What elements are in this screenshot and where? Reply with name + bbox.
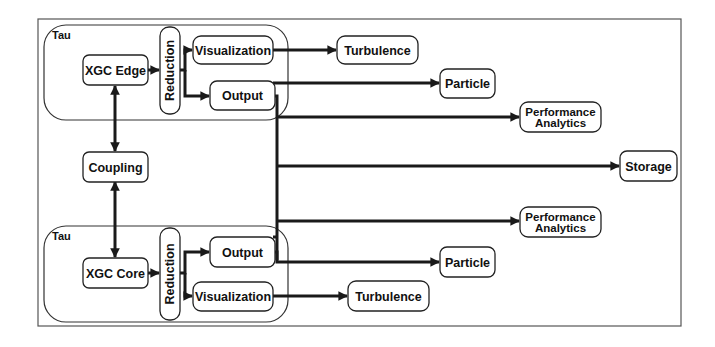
node-xgc-core[interactable]: XGC Core bbox=[83, 258, 148, 288]
node-output-top[interactable]: Output bbox=[210, 81, 275, 110]
node-reduction-top[interactable]: Reduction bbox=[160, 27, 180, 114]
svg-text:Reduction: Reduction bbox=[163, 243, 177, 304]
svg-text:Turbulence: Turbulence bbox=[344, 44, 410, 58]
svg-text:Particle: Particle bbox=[445, 77, 490, 91]
node-coupling[interactable]: Coupling bbox=[83, 152, 148, 182]
node-visualization-top[interactable]: Visualization bbox=[193, 36, 273, 64]
svg-text:Visualization: Visualization bbox=[195, 44, 271, 58]
node-particle-bottom[interactable]: Particle bbox=[440, 247, 495, 277]
svg-text:XGC Edge: XGC Edge bbox=[85, 64, 146, 78]
svg-text:Output: Output bbox=[222, 89, 264, 103]
svg-text:XGC Core: XGC Core bbox=[86, 267, 145, 281]
tau-label-top: Tau bbox=[52, 29, 71, 41]
edge-reduction-visualization-bottom bbox=[185, 273, 192, 296]
svg-text:Output: Output bbox=[222, 246, 264, 260]
node-turbulence-bottom[interactable]: Turbulence bbox=[348, 281, 429, 311]
tau-label-bottom: Tau bbox=[52, 230, 71, 242]
edge-reduction-visualization-top bbox=[180, 50, 192, 70]
svg-text:Particle: Particle bbox=[445, 256, 490, 270]
node-visualization-bottom[interactable]: Visualization bbox=[193, 282, 273, 311]
node-output-bottom[interactable]: Output bbox=[210, 237, 275, 267]
node-xgc-edge[interactable]: XGC Edge bbox=[83, 55, 148, 85]
edge-reduction-output-bottom bbox=[180, 252, 209, 273]
svg-text:Visualization: Visualization bbox=[195, 290, 271, 304]
svg-text:Analytics: Analytics bbox=[535, 117, 586, 129]
node-performance-analytics-top[interactable]: Performance Analytics bbox=[520, 102, 601, 132]
svg-text:Turbulence: Turbulence bbox=[355, 290, 421, 304]
node-reduction-bottom[interactable]: Reduction bbox=[160, 228, 180, 320]
workflow-diagram: Tau Tau XGC Ed bbox=[0, 0, 715, 347]
node-performance-analytics-bottom[interactable]: Performance Analytics bbox=[520, 207, 601, 237]
svg-text:Analytics: Analytics bbox=[535, 222, 586, 234]
svg-text:Coupling: Coupling bbox=[88, 161, 142, 175]
node-turbulence-top[interactable]: Turbulence bbox=[337, 36, 418, 64]
svg-text:Reduction: Reduction bbox=[163, 40, 177, 101]
edge-reduction-output-top bbox=[185, 70, 209, 96]
edges bbox=[115, 50, 619, 296]
node-particle-top[interactable]: Particle bbox=[440, 69, 495, 98]
svg-text:Storage: Storage bbox=[625, 160, 672, 174]
node-storage[interactable]: Storage bbox=[620, 151, 677, 181]
edge-output-particle-bottom bbox=[274, 252, 439, 262]
